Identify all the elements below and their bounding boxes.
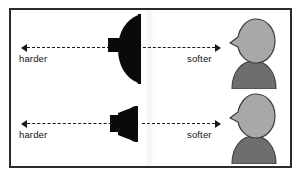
dashed-line: [22, 123, 122, 124]
row-narrow-dispersion: harder softer: [0, 88, 302, 166]
arrowhead-left-icon: [21, 44, 27, 52]
label-harder: harder: [19, 129, 47, 140]
arrowhead-right-icon: [215, 44, 221, 52]
dashed-line: [142, 123, 220, 124]
arrowhead-right-icon: [215, 120, 221, 128]
listener-figure: [228, 17, 280, 89]
wide-dispersion-speaker: [108, 12, 142, 86]
listener-figure: [228, 92, 280, 164]
label-softer: softer: [187, 53, 212, 64]
figure-root: harder softer: [0, 0, 302, 178]
label-softer: softer: [187, 129, 212, 140]
narrow-dispersion-speaker: [110, 106, 142, 142]
arrowhead-left-icon: [21, 120, 27, 128]
dashed-line: [143, 47, 220, 48]
row-wide-dispersion: harder softer: [0, 12, 302, 88]
label-harder: harder: [19, 53, 47, 64]
